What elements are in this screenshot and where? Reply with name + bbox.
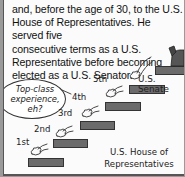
- comic-panel: and, before the age of 30, to the U.S. H…: [3, 0, 184, 176]
- footprint-marks-icon: [4, 0, 184, 174]
